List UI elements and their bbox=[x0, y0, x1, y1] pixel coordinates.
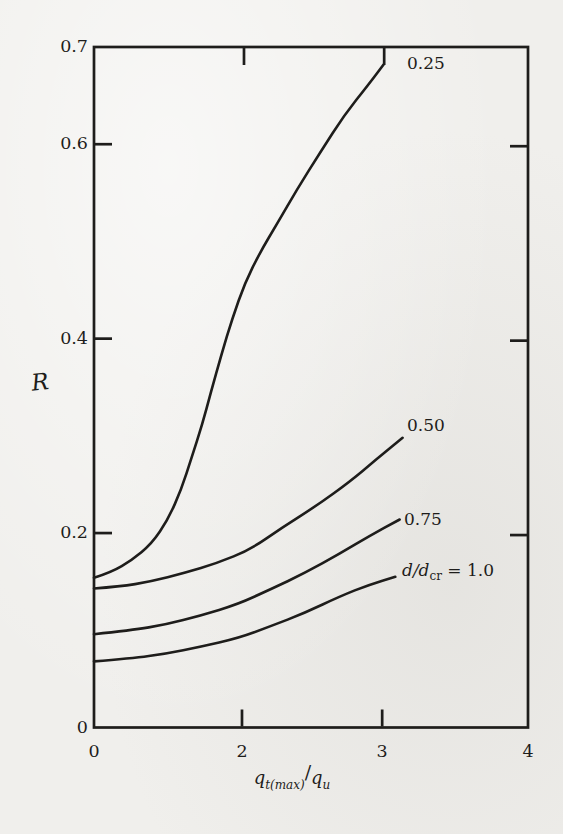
x-tick-label-4: 4 bbox=[508, 741, 548, 761]
curve-0.75 bbox=[94, 520, 400, 635]
x-axis-title-q1: q bbox=[254, 767, 266, 788]
x-tick-label-3: 3 bbox=[362, 741, 402, 761]
curve-1.0 bbox=[94, 577, 395, 662]
y-tick-label-0.4: 0.4 bbox=[36, 328, 88, 348]
y-tick-label-0.7: 0.7 bbox=[36, 36, 88, 56]
scanned-book-page: R qt(max)/qu 0.25 0.50 0.75 d/dcr = 1.0 … bbox=[0, 0, 563, 834]
x-axis-title-q2: q bbox=[311, 767, 323, 788]
x-axis-title-slash: / bbox=[305, 761, 311, 783]
x-axis-title-sub1: t(max) bbox=[265, 778, 305, 792]
curve-label-1.0-eq: = 1.0 bbox=[442, 560, 494, 580]
x-axis-title: qt(max)/qu bbox=[160, 767, 424, 792]
curve-0.50 bbox=[94, 438, 403, 589]
curve-label-1.0-sub: cr bbox=[430, 569, 442, 583]
y-tick-label-0.6: 0.6 bbox=[36, 133, 88, 153]
curve-label-0.75: 0.75 bbox=[404, 510, 442, 530]
curve-0.25 bbox=[94, 65, 384, 578]
y-axis-title: R bbox=[25, 368, 56, 397]
y-tick-label-0: 0 bbox=[36, 717, 88, 737]
x-tick-label-0: 0 bbox=[74, 741, 114, 761]
curve-label-1.0: d/dcr = 1.0 bbox=[402, 561, 494, 584]
y-tick-label-0.2: 0.2 bbox=[36, 522, 88, 542]
curve-label-0.50: 0.50 bbox=[407, 416, 445, 436]
x-axis-title-sub2: u bbox=[323, 778, 331, 792]
x-tick-label-2: 2 bbox=[222, 741, 262, 761]
curve-label-1.0-main: d/d bbox=[402, 560, 430, 580]
curve-label-0.25: 0.25 bbox=[407, 54, 445, 74]
plot-area bbox=[0, 0, 563, 834]
